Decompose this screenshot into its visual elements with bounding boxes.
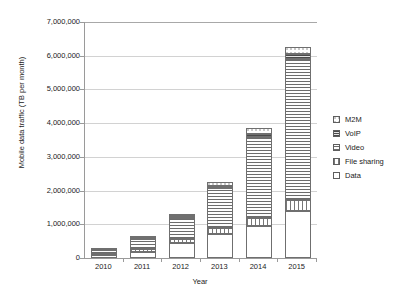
bar-segment-m2m[interactable] xyxy=(285,47,311,54)
bar-segment-video[interactable] xyxy=(91,250,117,253)
bar-segment-video[interactable] xyxy=(169,218,195,239)
legend-item-m2m[interactable]: M2M xyxy=(333,112,399,126)
plot-area xyxy=(84,22,317,259)
bar-group-2015[interactable] xyxy=(285,47,311,258)
legend-label: Data xyxy=(345,171,361,180)
y-tick-label: 2,000,000 xyxy=(10,187,80,195)
y-tick-label: 4,000,000 xyxy=(10,119,80,127)
legend-item-voip[interactable]: VoIP xyxy=(333,126,399,140)
legend-item-file-sharing[interactable]: File sharing xyxy=(333,154,399,168)
bar-segment-voip[interactable] xyxy=(207,186,233,188)
gridline xyxy=(85,157,317,158)
bar-segment-m2m[interactable] xyxy=(169,214,195,216)
bar-group-2011[interactable] xyxy=(130,238,156,258)
y-tick-label: 3,000,000 xyxy=(10,153,80,161)
dotted-swatch xyxy=(333,116,340,123)
bar-segment-m2m[interactable] xyxy=(130,236,156,238)
gridline xyxy=(85,224,317,225)
legend-item-data[interactable]: Data xyxy=(333,168,399,182)
y-tick-label: 7,000,000 xyxy=(10,18,80,26)
gridline xyxy=(85,56,317,57)
x-axis-title: Year xyxy=(84,277,316,286)
legend-item-video[interactable]: Video xyxy=(333,140,399,154)
bar-segment-voip[interactable] xyxy=(246,134,272,137)
bar-segment-m2m[interactable] xyxy=(91,248,117,250)
bar-segment-m2m[interactable] xyxy=(207,182,233,186)
y-tick-label: 6,000,000 xyxy=(10,52,80,60)
white-swatch xyxy=(333,172,340,179)
x-tick-mark xyxy=(316,258,317,262)
bar-segment-video[interactable] xyxy=(285,59,311,200)
bar-segment-data[interactable] xyxy=(207,234,233,258)
stacked-bar-chart: Mobile data traffic (TB per month) 01,00… xyxy=(0,0,402,301)
legend-label: Video xyxy=(345,143,364,152)
y-tick-label: 1,000,000 xyxy=(10,220,80,228)
bar-group-2013[interactable] xyxy=(207,182,233,258)
bar-group-2010[interactable] xyxy=(91,250,117,258)
bar-segment-data[interactable] xyxy=(91,255,117,258)
legend-label: VoIP xyxy=(345,129,361,138)
y-axis-title: Mobile data traffic (TB per month) xyxy=(17,18,26,208)
bar-segment-video[interactable] xyxy=(246,137,272,217)
x-tick-label-2015: 2015 xyxy=(274,262,320,271)
bar-segment-video[interactable] xyxy=(207,188,233,228)
horizontal-lines-swatch xyxy=(333,144,340,151)
gridline xyxy=(85,22,317,23)
y-tick-label: 5,000,000 xyxy=(10,85,80,93)
gridline xyxy=(85,191,317,192)
bar-segment-file-sharing[interactable] xyxy=(246,218,272,227)
legend-label: File sharing xyxy=(345,157,384,166)
bar-segment-m2m[interactable] xyxy=(246,128,272,134)
y-tick-label: 0 xyxy=(10,254,80,262)
chart-legend: M2MVoIPVideoFile sharingData xyxy=(333,112,399,182)
legend-label: M2M xyxy=(345,115,362,124)
bar-segment-video[interactable] xyxy=(130,239,156,249)
bar-group-2012[interactable] xyxy=(169,214,195,258)
bar-segment-voip[interactable] xyxy=(285,54,311,58)
bar-segment-data[interactable] xyxy=(246,226,272,258)
bar-segment-data[interactable] xyxy=(285,211,311,258)
gridline xyxy=(85,123,317,124)
dense-lines-swatch xyxy=(333,130,340,137)
vertical-lines-swatch xyxy=(333,158,340,165)
bar-segment-data[interactable] xyxy=(169,243,195,258)
bar-segment-file-sharing[interactable] xyxy=(207,228,233,234)
bar-segment-file-sharing[interactable] xyxy=(169,239,195,243)
bar-segment-file-sharing[interactable] xyxy=(285,200,311,211)
gridline xyxy=(85,89,317,90)
bar-segment-data[interactable] xyxy=(130,252,156,258)
bar-group-2014[interactable] xyxy=(246,128,272,258)
bar-segment-file-sharing[interactable] xyxy=(130,249,156,252)
